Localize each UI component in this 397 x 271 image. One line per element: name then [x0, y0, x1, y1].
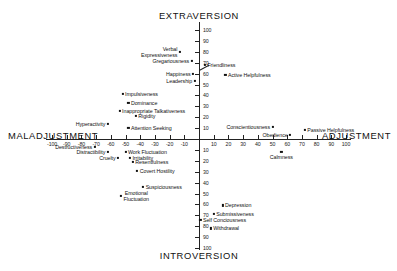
- data-point: [271, 126, 273, 128]
- x-tick-label: 70: [299, 141, 305, 147]
- y-tick-mark: [195, 41, 199, 42]
- data-point-label: Friendliness: [207, 62, 235, 68]
- y-tick-mark: [195, 204, 199, 205]
- data-point: [94, 146, 96, 148]
- data-point-label: Resentfulness: [135, 159, 168, 165]
- x-tick-mark: [170, 135, 171, 139]
- x-tick-label: 60: [284, 141, 290, 147]
- data-point-label: Gregariousness: [152, 57, 189, 63]
- y-tick-mark: [195, 74, 199, 75]
- x-tick-mark: [317, 135, 318, 139]
- data-point-label: Covert Hostility: [140, 168, 175, 174]
- x-tick-label: 100: [342, 141, 350, 147]
- x-tick-label: 20: [226, 141, 232, 147]
- data-point: [127, 127, 129, 129]
- y-tick-label: 90: [203, 38, 209, 44]
- y-tick-label: 60: [203, 71, 209, 77]
- x-tick-mark: [111, 135, 112, 139]
- y-tick-mark: [195, 30, 199, 31]
- y-tick-mark: [195, 128, 199, 129]
- data-point-label: Attention Seeking: [131, 125, 172, 131]
- x-tick-label: 40: [255, 141, 261, 147]
- data-point-label: Calmness: [270, 154, 293, 160]
- y-tick-label: 20: [203, 114, 209, 120]
- data-point-label: Happiness: [166, 71, 191, 77]
- axis-title-extraversion: EXTRAVERSION: [159, 10, 239, 21]
- data-point-label: Self Conciousness: [203, 217, 246, 223]
- data-point: [289, 134, 291, 136]
- y-tick-mark: [195, 161, 199, 162]
- y-tick-mark: [195, 150, 199, 151]
- data-point-label: Suspiciousness: [146, 184, 182, 190]
- x-tick-label: -60: [107, 141, 114, 147]
- y-tick-label: 80: [203, 223, 209, 229]
- x-tick-label: -40: [137, 141, 144, 147]
- y-tick-label: 30: [203, 103, 209, 109]
- y-tick-label: 40: [203, 180, 209, 186]
- data-point-label: Conscientiousness: [226, 124, 270, 130]
- y-tick-label: 90: [203, 234, 209, 240]
- y-tick-mark: [195, 183, 199, 184]
- axis-title-adjustment: ADJUSTMENT: [322, 130, 391, 141]
- y-tick-label: 10: [203, 125, 209, 131]
- data-point-label: Leadership: [166, 78, 192, 84]
- data-point: [192, 73, 194, 75]
- data-point: [129, 156, 131, 158]
- x-tick-label: -10: [181, 141, 188, 147]
- x-tick-mark: [228, 135, 229, 139]
- data-point-label: VerbalExpressiveness: [141, 46, 177, 58]
- y-tick-label: 20: [203, 158, 209, 164]
- y-tick-mark: [195, 85, 199, 86]
- x-tick-label: 50: [270, 141, 276, 147]
- data-point-label: Cruelty: [99, 154, 115, 160]
- personality-scatter-chart: -100-90-80-70-60-50-40-30-20-10102030405…: [0, 0, 397, 271]
- data-point: [107, 123, 109, 125]
- y-tick-label: 100: [203, 27, 211, 33]
- data-point-label: Obedience: [262, 132, 287, 138]
- data-point: [213, 213, 215, 215]
- data-point-label: Depression: [225, 202, 251, 208]
- data-point: [199, 219, 201, 221]
- x-tick-mark: [126, 135, 127, 139]
- data-point: [132, 161, 134, 163]
- y-tick-mark: [195, 95, 199, 96]
- y-tick-mark: [195, 117, 199, 118]
- y-tick-mark: [195, 63, 199, 64]
- x-tick-label: -30: [151, 141, 158, 147]
- y-tick-label: 30: [203, 169, 209, 175]
- data-point: [107, 151, 109, 153]
- data-point: [304, 129, 306, 131]
- y-tick-mark: [195, 172, 199, 173]
- y-tick-label: 80: [203, 49, 209, 55]
- data-point-label: Active Helpfulness: [228, 72, 271, 78]
- data-point: [210, 227, 212, 229]
- x-tick-label: 90: [329, 141, 335, 147]
- data-point: [136, 170, 138, 172]
- y-tick-mark: [195, 194, 199, 195]
- y-tick-label: 50: [203, 82, 209, 88]
- data-point: [191, 59, 193, 61]
- y-tick-mark: [195, 106, 199, 107]
- data-point: [221, 204, 223, 206]
- data-point: [224, 74, 226, 76]
- data-point: [127, 102, 129, 104]
- x-tick-mark: [243, 135, 244, 139]
- x-tick-mark: [302, 135, 303, 139]
- data-point: [117, 156, 119, 158]
- y-tick-label: 50: [203, 191, 209, 197]
- data-point-label: Impulsiveness: [125, 91, 158, 97]
- x-tick-label: -20: [166, 141, 173, 147]
- x-tick-label: 10: [211, 141, 217, 147]
- x-tick-label: 30: [240, 141, 246, 147]
- data-point: [124, 151, 126, 153]
- y-tick-label: 40: [203, 92, 209, 98]
- axis-title-introversion: INTROVERSION: [160, 250, 239, 261]
- x-tick-mark: [184, 135, 185, 139]
- data-point: [119, 110, 121, 112]
- x-tick-label: -50: [122, 141, 129, 147]
- x-tick-label: 80: [314, 141, 320, 147]
- data-point: [120, 195, 122, 197]
- y-axis-line: [199, 22, 200, 250]
- y-tick-mark: [195, 237, 199, 238]
- data-point: [121, 93, 123, 95]
